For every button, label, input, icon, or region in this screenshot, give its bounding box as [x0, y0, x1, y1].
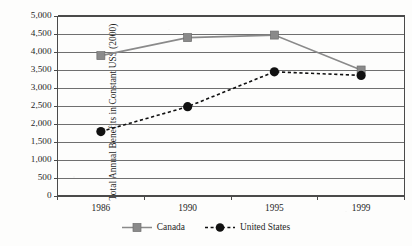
data-point-united-states [270, 67, 279, 76]
chart-legend: Canada United States [0, 222, 412, 233]
data-point-united-states [96, 127, 105, 136]
data-point-canada [97, 52, 105, 60]
chart-figure: Total Annual Benefits in Constant US$ (2… [0, 0, 412, 246]
plot-area [0, 0, 412, 246]
legend-swatch-united-states [205, 222, 235, 233]
legend-item-united-states: United States [205, 222, 290, 233]
legend-label-united-states: United States [240, 223, 290, 232]
legend-swatch-canada [122, 222, 152, 233]
series-line-canada [101, 35, 361, 70]
legend-label-canada: Canada [157, 223, 185, 232]
data-point-united-states [357, 71, 366, 80]
data-point-canada [184, 34, 192, 42]
legend-item-canada: Canada [122, 222, 185, 233]
data-point-united-states [183, 102, 192, 111]
data-point-canada [270, 31, 278, 39]
series-line-united-states [101, 72, 361, 132]
